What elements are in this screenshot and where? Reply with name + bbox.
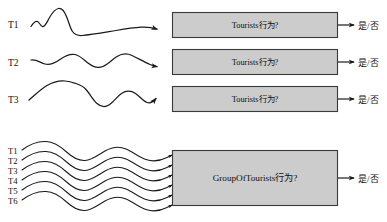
series-label-t2-top: T2 [8, 58, 19, 68]
process-box-label-1: Tourists行为? [232, 20, 279, 30]
process-box-label-2: Tourists行为? [232, 57, 279, 67]
series-label-t4-bottom: T4 [8, 176, 18, 186]
waveform-bundle-group [22, 141, 172, 210]
waveform-t3-top [29, 81, 156, 107]
waveform-t1-top [31, 8, 157, 35]
series-label-t2-bottom: T2 [8, 156, 18, 166]
process-box-label-group: GroupOfTourists行为? [213, 172, 298, 183]
output-label-3: 是/否 [358, 95, 379, 105]
waveform-t2-top [31, 54, 157, 67]
process-box-label-3: Tourists行为? [232, 94, 279, 104]
series-label-t5-bottom: T5 [8, 186, 18, 196]
series-label-t3-bottom: T3 [8, 166, 18, 176]
series-label-t1-bottom: T1 [8, 146, 18, 156]
output-label-group: 是/否 [358, 174, 379, 184]
waveform-bundle-t6 [22, 191, 172, 210]
series-label-t6-bottom: T6 [8, 196, 18, 206]
series-label-t3-top: T3 [8, 95, 19, 105]
output-label-2: 是/否 [358, 58, 379, 68]
diagram-root: T1 Tourists行为? 是/否 T2 Tourists行为? 是/否 T3… [0, 0, 387, 222]
series-label-t1-top: T1 [8, 20, 19, 30]
output-label-1: 是/否 [358, 21, 379, 31]
behavior-classification-diagram: T1 Tourists行为? 是/否 T2 Tourists行为? 是/否 T3… [0, 0, 387, 222]
